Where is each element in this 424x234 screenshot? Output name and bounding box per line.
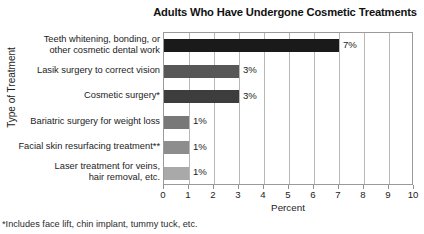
value-label: 1% (193, 166, 207, 177)
x-axis-title: Percent (163, 202, 413, 213)
bar (164, 167, 189, 180)
x-tick-label: 6 (303, 189, 323, 200)
chart-title: Adults Who Have Undergone Cosmetic Treat… (150, 6, 420, 18)
category-label: Laser treatment for veins, hair removal,… (8, 161, 160, 183)
x-tick-label: 1 (178, 189, 198, 200)
gridline (189, 33, 190, 184)
category-label: Cosmetic surgery* (8, 90, 160, 101)
footnote-1: *Includes face lift, chin implant, tummy… (2, 219, 198, 229)
category-label: Teeth whitening, bonding, or other cosme… (8, 34, 160, 56)
gridline (289, 33, 290, 184)
x-tick-label: 9 (378, 189, 398, 200)
bar (164, 141, 189, 154)
plot-area (163, 32, 413, 185)
value-label: 1% (193, 141, 207, 152)
bar (164, 90, 239, 103)
category-label: Bariatric surgery for weight loss (8, 116, 160, 127)
value-label: 3% (243, 64, 257, 75)
value-label: 7% (343, 39, 357, 50)
x-tick-label: 7 (328, 189, 348, 200)
bar (164, 116, 189, 129)
bar-chart: Adults Who Have Undergone Cosmetic Treat… (0, 0, 424, 234)
x-tick-label: 4 (253, 189, 273, 200)
x-tick-label: 8 (353, 189, 373, 200)
gridline (339, 33, 340, 184)
x-tick-label: 0 (153, 189, 173, 200)
gridline (389, 33, 390, 184)
gridline (264, 33, 265, 184)
category-label: Facial skin resurfacing treatment** (8, 141, 160, 152)
category-label: Lasik surgery to correct vision (8, 65, 160, 76)
x-tick-label: 2 (203, 189, 223, 200)
value-label: 1% (193, 115, 207, 126)
gridline (239, 33, 240, 184)
x-tick-label: 3 (228, 189, 248, 200)
value-label: 3% (243, 90, 257, 101)
gridline (314, 33, 315, 184)
bar (164, 39, 339, 52)
gridline (364, 33, 365, 184)
bar (164, 65, 239, 78)
x-tick-label: 10 (403, 189, 423, 200)
x-tick-label: 5 (278, 189, 298, 200)
gridline (214, 33, 215, 184)
